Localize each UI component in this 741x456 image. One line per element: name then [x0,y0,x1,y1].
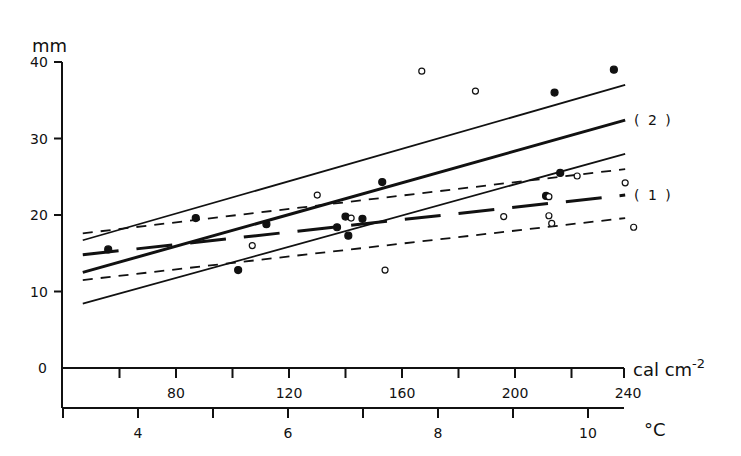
filled-data-point [334,224,341,231]
filled-data-point [557,169,564,176]
open-data-point [348,215,354,221]
open-data-point [472,88,478,94]
filled-data-point [345,232,352,239]
y-axis-unit: mm [32,35,67,56]
regression-chart: 010203040 80120160200240 46810 mm cal cm… [0,0,741,456]
filled-data-point [235,267,242,274]
temp-axis-ticks: 46810 [63,408,597,441]
open-data-point [622,180,628,186]
regression-line [83,154,625,304]
filled-data-point [551,89,558,96]
temp-tick-label: 10 [579,425,597,441]
series-label-1: ( 1 ) [634,187,673,203]
y-axis-ticks: 010203040 [30,54,62,376]
open-data-point [546,213,552,219]
temp-tick-label: 4 [134,425,143,441]
y-tick-label: 10 [30,284,48,300]
cal-tick-label: 160 [389,385,416,401]
axes [62,62,624,408]
open-data-point [382,267,388,273]
temp-axis-unit: °C [644,419,666,440]
filled-data-point [263,221,270,228]
filled-data-point [359,215,366,222]
open-data-point [314,192,320,198]
cal-tick-label: 200 [502,385,529,401]
cal-tick-label: 240 [615,385,642,401]
filled-data-point [610,66,617,73]
open-data-point [574,173,580,179]
open-data-point [419,68,425,74]
regression-line [83,195,625,255]
filled-data-point [105,246,112,253]
series-label-2: ( 2 ) [634,112,673,128]
open-data-point [501,214,507,220]
cal-axis-unit: cal cm-2 [633,356,705,380]
filled-data-point [192,215,199,222]
temp-tick-label: 6 [284,425,293,441]
temp-tick-label: 8 [434,425,443,441]
y-tick-label: 40 [30,54,48,70]
y-tick-label: 30 [30,131,48,147]
open-data-point [249,243,255,249]
open-data-point [631,224,637,230]
cal-tick-label: 120 [276,385,303,401]
y-tick-label: 0 [38,360,47,376]
cal-tick-label: 80 [167,385,185,401]
open-data-point [546,194,552,200]
open-data-point [549,220,555,226]
filled-data-point [379,179,386,186]
cal-axis-ticks: 80120160200240 [120,368,642,401]
y-tick-label: 20 [30,207,48,223]
